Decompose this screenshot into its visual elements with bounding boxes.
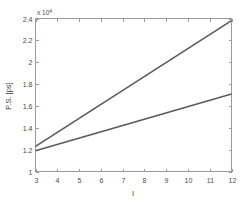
x-tick-label: 7 (122, 177, 126, 184)
y-tick-label: 1.4 (23, 125, 33, 132)
y-axis-tick-labels: 11.21.41.61.822.22.4 (23, 16, 33, 176)
x-tick-label: 8 (143, 177, 147, 184)
x-tick-label: 10 (185, 177, 193, 184)
x-tick-label: 9 (165, 177, 169, 184)
x-tick-label: 4 (56, 177, 60, 184)
y-tick-label: 1.6 (23, 103, 33, 110)
x-axis-ticks (37, 19, 233, 172)
line-chart: 3456789101112 11.21.41.61.822.22.4 x 104… (0, 0, 249, 206)
x-tick-label: 3 (35, 177, 39, 184)
y-tick-label: 1.8 (23, 81, 33, 88)
x-axis-tick-labels: 3456789101112 (35, 177, 237, 184)
x-tick-label: 11 (207, 177, 214, 184)
x-axis-title: l (132, 189, 134, 198)
y-tick-label: 2.2 (23, 37, 33, 44)
data-series-group (36, 21, 232, 151)
data-line-lower (36, 94, 232, 151)
x-tick-label: 12 (229, 177, 237, 184)
y-tick-label: 2.4 (23, 16, 33, 23)
data-line-upper (36, 21, 232, 147)
x-tick-label: 5 (78, 177, 82, 184)
y-axis-title: P.S. [ps] (4, 82, 13, 109)
y-tick-label: 1.2 (23, 147, 33, 154)
y-tick-label: 2 (29, 59, 33, 66)
y-axis-ticks (36, 20, 232, 173)
y-tick-label: 1 (29, 169, 33, 176)
figure-canvas: 3456789101112 11.21.41.61.822.22.4 x 104… (0, 0, 249, 206)
plot-area-border (36, 19, 232, 172)
x-tick-label: 6 (100, 177, 104, 184)
y-axis-exponent-label: x 104 (37, 8, 52, 17)
